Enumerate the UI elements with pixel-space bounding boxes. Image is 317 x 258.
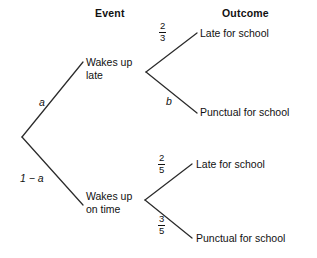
branch-fraction-two-thirds: 2 3	[159, 21, 166, 43]
branch-fraction-two-fifths: 2 5	[158, 153, 165, 175]
event-node-wakes-late: Wakes up late	[86, 56, 132, 81]
column-header-outcome: Outcome	[222, 7, 269, 19]
branch-wakes-on-time-to-late	[145, 164, 192, 200]
branch-root-to-wakes-on-time	[22, 137, 83, 205]
event-node-wakes-on-time-line2: on time	[86, 203, 120, 215]
fraction-denominator: 5	[158, 225, 165, 237]
outcome-punctual-from-wakes-on-time: Punctual for school	[196, 232, 285, 244]
fraction-numerator: 2	[159, 21, 166, 32]
fraction-denominator: 5	[158, 164, 165, 176]
fraction-denominator: 3	[159, 32, 166, 44]
event-node-wakes-late-line1: Wakes up	[86, 56, 132, 68]
event-node-wakes-on-time: Wakes up on time	[86, 190, 132, 215]
branch-root-to-wakes-late	[22, 62, 83, 137]
event-node-wakes-on-time-line1: Wakes up	[86, 190, 132, 202]
probability-tree-diagram: Event Outcome a 1 − a Wakes up late Wake…	[0, 0, 317, 258]
branch-label-wakes-on-time-probability: 1 − a	[20, 172, 44, 184]
branch-label-wakes-late-probability: a	[39, 96, 45, 108]
outcome-late-from-wakes-on-time: Late for school	[196, 158, 265, 170]
column-header-event: Event	[95, 7, 125, 19]
branch-fraction-three-fifths: 3 5	[158, 214, 165, 236]
branch-wakes-late-to-late	[146, 33, 197, 72]
branch-wakes-on-time-to-punctual	[145, 200, 192, 238]
outcome-late-from-wakes-late: Late for school	[200, 27, 269, 39]
branch-label-punctual-given-late: b	[166, 95, 172, 107]
fraction-numerator: 2	[158, 153, 165, 164]
fraction-numerator: 3	[158, 214, 165, 225]
event-node-wakes-late-line2: late	[86, 69, 103, 81]
outcome-punctual-from-wakes-late: Punctual for school	[200, 106, 289, 118]
